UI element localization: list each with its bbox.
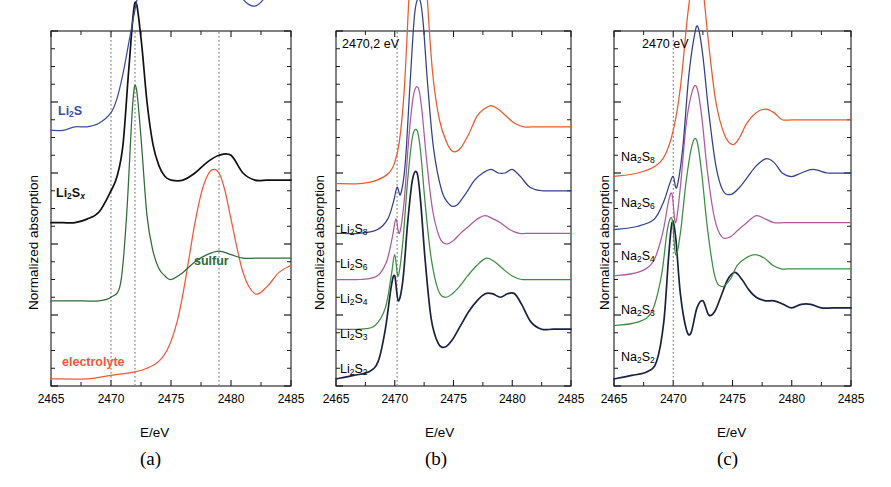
figure-xanes-spectra: Normalized absorption E/eV (a) Li2S Li2S…	[0, 0, 891, 487]
panel-b: Normalized absorption 2470,2 eV E/eV (b)…	[290, 0, 590, 487]
curve-label-na2s6: Na2S6	[621, 196, 655, 211]
curve-label-li2sx: Li2Sx	[56, 186, 85, 201]
xtick-label: 2465	[589, 392, 639, 406]
xtick-label: 2480	[767, 392, 817, 406]
curve-label-li2s8: Li2S8	[340, 222, 368, 237]
curve-label-na2s3: Na2S3	[621, 303, 655, 318]
panel-b-annotation: 2470,2 eV	[342, 37, 399, 51]
panel-c: Normalized absorption 2470 eV E/eV (c) N…	[575, 0, 891, 487]
xtick-label: 2465	[26, 392, 76, 406]
xtick-label: 2485	[826, 392, 876, 406]
panel-a-xlabel: E/eV	[140, 425, 169, 440]
panel-b-plot	[290, 0, 590, 400]
panel-b-xlabel: E/eV	[425, 425, 454, 440]
panel-b-caption: (b)	[425, 448, 447, 470]
xtick-label: 2470	[648, 392, 698, 406]
xtick-label: 2480	[206, 392, 256, 406]
panel-a: Normalized absorption E/eV (a) Li2S Li2S…	[0, 0, 300, 487]
curve-label-li2s2: Li2S2	[340, 362, 368, 377]
curve-label-electrolyte: electrolyte	[62, 355, 125, 369]
curve-label-sulfur: sulfur	[194, 254, 229, 268]
panel-a-plot	[0, 0, 300, 400]
xtick-label: 2470	[370, 392, 420, 406]
panel-a-caption: (a)	[140, 448, 161, 470]
xtick-label: 2465	[311, 392, 361, 406]
curve-label-li2s3: Li2S3	[340, 327, 368, 342]
xtick-label: 2480	[487, 392, 537, 406]
curve-label-li2s4: Li2S4	[340, 292, 368, 307]
xtick-label: 2475	[429, 392, 479, 406]
curve-label-na2s2: Na2S2	[621, 350, 655, 365]
curve-label-li2s: Li2S	[58, 104, 82, 119]
panel-c-caption: (c)	[717, 448, 738, 470]
curve-label-na2s8: Na2S8	[621, 150, 655, 165]
panel-c-xlabel: E/eV	[717, 425, 746, 440]
curve-label-na2s4: Na2S4	[621, 249, 655, 264]
xtick-label: 2475	[146, 392, 196, 406]
xtick-label: 2470	[86, 392, 136, 406]
xtick-label: 2475	[708, 392, 758, 406]
curve-label-li2s6: Li2S6	[340, 257, 368, 272]
panel-c-annotation: 2470 eV	[642, 37, 689, 51]
